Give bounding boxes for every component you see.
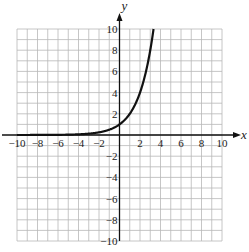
x-tick-label: −10 (8, 137, 26, 149)
y-tick-label: 4 (112, 87, 118, 99)
x-tick-label: −8 (32, 137, 44, 149)
y-tick-label: −6 (106, 193, 118, 205)
y-tick-label: −2 (106, 150, 118, 162)
x-axis-label: x (240, 127, 247, 142)
x-tick-label: 4 (158, 137, 164, 149)
x-tick-label: −6 (52, 137, 64, 149)
x-tick-label: −2 (93, 137, 105, 149)
y-tick-label: 2 (112, 108, 118, 120)
x-tick-label: 10 (217, 137, 229, 149)
y-tick-label: 6 (112, 65, 118, 77)
y-tick-label: 8 (112, 44, 118, 56)
x-tick-label: −4 (73, 137, 85, 149)
y-axis-label: y (120, 0, 128, 13)
y-axis-arrow-icon (117, 13, 123, 21)
x-tick-label: 6 (178, 137, 184, 149)
x-tick-label: 2 (137, 137, 143, 149)
y-tick-label: −10 (100, 235, 118, 247)
x-tick-label: 8 (199, 137, 205, 149)
exponential-graph: −10−8−6−4−2246810−10−8−6−4−2246810 x y (0, 0, 249, 252)
y-tick-label: 10 (107, 23, 119, 35)
y-tick-label: −8 (106, 214, 118, 226)
x-axis-arrow-icon (233, 132, 241, 138)
y-tick-label: −4 (106, 171, 118, 183)
